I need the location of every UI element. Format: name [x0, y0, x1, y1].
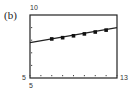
x-tick — [51, 75, 52, 76]
x-tick — [30, 75, 31, 76]
x-tick — [84, 75, 85, 76]
data-point — [50, 37, 54, 41]
plot-area — [0, 0, 137, 95]
x-tick — [117, 75, 118, 76]
data-point — [83, 32, 87, 36]
y-tick — [31, 52, 32, 53]
plot-frame — [30, 15, 117, 78]
x-tick — [95, 75, 96, 76]
x-tick — [106, 75, 107, 76]
x-tick — [73, 75, 74, 76]
data-point — [93, 30, 97, 34]
x-tick — [40, 75, 41, 76]
data-point — [104, 28, 108, 32]
y-tick — [31, 65, 32, 66]
y-tick — [31, 27, 32, 28]
data-point — [72, 34, 76, 38]
y-tick — [31, 40, 32, 41]
x-tick — [62, 75, 63, 76]
data-point — [61, 36, 65, 40]
